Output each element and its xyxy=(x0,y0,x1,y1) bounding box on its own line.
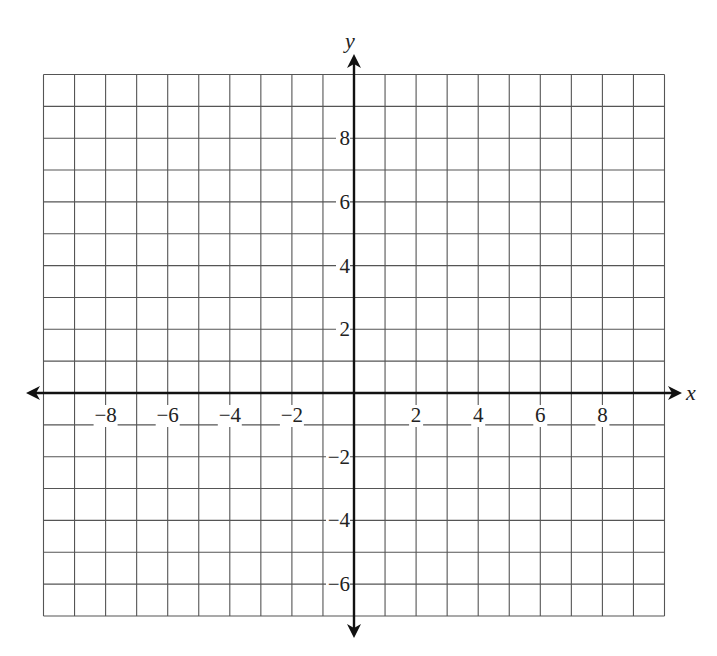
x-tick-label: −4 xyxy=(219,403,242,427)
y-tick-label: 8 xyxy=(340,126,351,150)
x-tick-label: −2 xyxy=(281,403,303,427)
x-tick-label: 2 xyxy=(411,403,422,427)
coordinate-plane: −8−6−4−224688642−2−4−6 x y xyxy=(0,0,717,656)
y-axis-label: y xyxy=(343,28,355,53)
x-tick-label: 8 xyxy=(597,403,608,427)
x-tick-label: −6 xyxy=(157,403,179,427)
y-tick-label: 2 xyxy=(340,317,351,341)
x-tick-label: −8 xyxy=(94,403,116,427)
y-tick-label: −4 xyxy=(328,508,351,532)
y-tick-label: 4 xyxy=(340,254,351,278)
x-tick-label: 4 xyxy=(473,403,484,427)
y-tick-label: 6 xyxy=(340,190,351,214)
y-tick-label: −6 xyxy=(328,572,350,596)
x-axis-label: x xyxy=(685,380,696,405)
y-tick-label: −2 xyxy=(328,445,350,469)
x-tick-label: 6 xyxy=(535,403,546,427)
axes xyxy=(26,54,682,638)
